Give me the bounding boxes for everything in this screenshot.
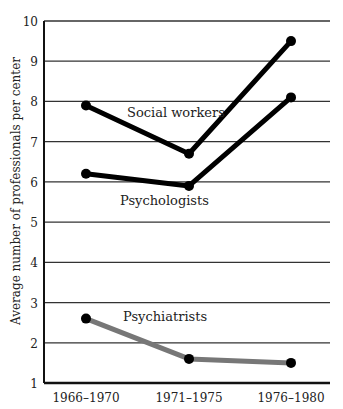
data-point-psychologists: [81, 169, 91, 179]
series-label-social-workers: Social workers: [127, 105, 225, 120]
y-tick-label: 5: [30, 216, 38, 230]
y-axis-ticks: 12345678910: [23, 15, 39, 391]
data-point-social-workers: [286, 36, 296, 46]
series-label-psychiatrists: Psychiatrists: [123, 309, 207, 324]
y-tick-label: 4: [30, 256, 38, 270]
x-tick-label: 1966–1970: [52, 391, 119, 405]
y-tick-label: 9: [30, 55, 38, 69]
data-point-social-workers: [184, 149, 194, 159]
y-tick-label: 2: [30, 337, 38, 351]
data-point-psychiatrists: [286, 358, 296, 368]
y-tick-label: 10: [23, 15, 38, 29]
data-point-psychiatrists: [184, 354, 194, 364]
y-tick-label: 7: [30, 136, 38, 150]
series-label-psychologists: Psychologists: [120, 193, 209, 208]
y-tick-label: 3: [30, 297, 38, 311]
line-chart: 12345678910 1966–19701971–19751976–1980 …: [0, 0, 343, 409]
y-tick-label: 1: [30, 377, 38, 391]
y-axis-label: Average number of professionals per cent…: [9, 57, 23, 326]
x-axis-ticks: 1966–19701971–19751976–1980: [52, 391, 324, 405]
y-tick-label: 8: [30, 95, 38, 109]
data-point-social-workers: [81, 101, 91, 111]
x-tick-label: 1971–1975: [155, 391, 222, 405]
y-tick-label: 6: [30, 176, 38, 190]
series-line-social-workers: [86, 41, 291, 154]
data-point-psychiatrists: [81, 314, 91, 324]
data-point-psychologists: [286, 92, 296, 102]
data-point-psychologists: [184, 181, 194, 191]
x-tick-label: 1976–1980: [257, 391, 324, 405]
